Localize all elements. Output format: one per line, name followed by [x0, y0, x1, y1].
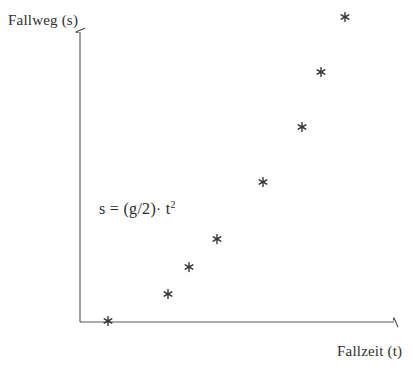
data-point-group	[104, 13, 349, 326]
data-point-marker	[104, 317, 112, 326]
data-point-marker	[259, 178, 267, 187]
plot-canvas	[0, 0, 415, 376]
formula-left-side: s = (g/2)	[99, 200, 156, 217]
data-point-marker	[341, 13, 349, 22]
formula-multiplication-dot: ·	[156, 201, 161, 217]
data-point-marker	[317, 68, 325, 77]
formula-exponent: 2	[170, 199, 175, 210]
data-point-marker	[298, 123, 306, 132]
data-point-marker	[213, 235, 221, 244]
formula-annotation: s = (g/2)· t2	[99, 199, 176, 218]
x-axis-label: Fallzeit (t)	[337, 343, 402, 360]
y-axis-label: Fallweg (s)	[8, 12, 78, 29]
data-point-marker	[185, 263, 193, 272]
data-point-marker	[164, 290, 172, 299]
free-fall-scatter-figure: Fallweg (s) Fallzeit (t) s = (g/2)· t2	[0, 0, 415, 376]
